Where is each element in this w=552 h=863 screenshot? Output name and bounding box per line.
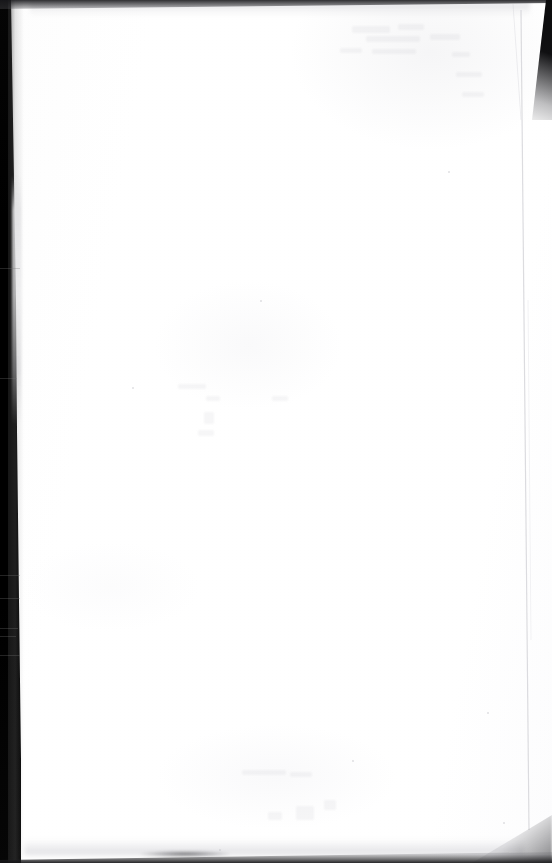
scanned-document-page xyxy=(0,0,552,863)
paper-grain-texture xyxy=(0,0,552,863)
paper-sheet xyxy=(0,0,552,863)
